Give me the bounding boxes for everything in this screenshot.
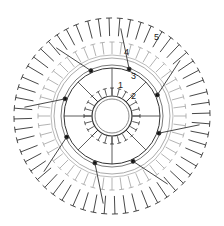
round-label: 3 — [131, 71, 136, 81]
light-stitches — [38, 42, 186, 190]
round-label: 1 — [118, 80, 123, 90]
crochet-diagram: 12345 — [0, 0, 224, 226]
round-label: 4 — [124, 47, 129, 57]
round-label: 5 — [154, 32, 159, 42]
round-label: 2 — [131, 91, 136, 101]
inner-stitches — [64, 68, 160, 164]
